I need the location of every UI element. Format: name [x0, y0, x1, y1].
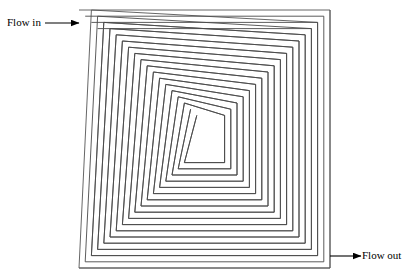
flow-out-label: Flow out [362, 250, 401, 261]
flow-in-label: Flow in [7, 17, 41, 28]
spiral-wall [98, 29, 312, 250]
flow-arrows [45, 23, 361, 256]
spiral-diagram-canvas [0, 0, 410, 278]
spiral-channel-walls [79, 10, 330, 268]
spiral-wall [91, 22, 317, 255]
spiral-flow-diagram: Flow in Flow out [0, 0, 410, 278]
